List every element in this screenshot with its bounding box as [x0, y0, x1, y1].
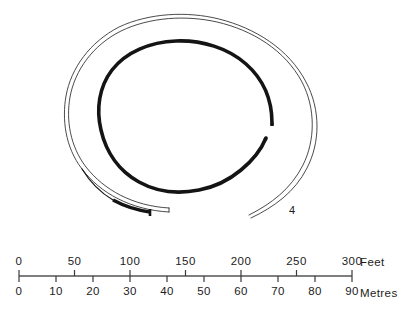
- scale-label-feet-100: 100: [120, 256, 140, 268]
- scale-bar-metre-ticks: [19, 276, 352, 282]
- outer-ditch-double-line: [64, 14, 317, 218]
- outer-ditch-solid-terminal: [113, 200, 150, 212]
- scale-label-metres-40: 40: [160, 286, 174, 298]
- inner-ditch-thick-line: [99, 41, 272, 192]
- scale-label-feet-150: 150: [175, 256, 195, 268]
- inner-ditch-main-circuit: [99, 41, 272, 192]
- scale-label-feet-250: 250: [286, 256, 306, 268]
- figure-number-label: 4: [289, 205, 295, 216]
- outer-ditch-thickening-arm: [82, 169, 148, 212]
- outer-ditch-outer-edge: [69, 18, 313, 215]
- scale-label-metres-90: 90: [345, 286, 359, 298]
- scale-label-metres-30: 30: [123, 286, 137, 298]
- scale-label-metres-60: 60: [234, 286, 248, 298]
- scale-label-metres-20: 20: [86, 286, 100, 298]
- scale-label-metres-80: 80: [308, 286, 322, 298]
- scale-label-metres-50: 50: [197, 286, 211, 298]
- figure-container: 4 0501001502002503000102030405060708090F…: [0, 0, 404, 318]
- inner-ditch-gap-terminal-south: [265, 138, 266, 140]
- scale-bar-feet-ticks: [19, 270, 352, 276]
- site-plan-drawing: [0, 0, 404, 318]
- scale-label-metres-10: 10: [49, 286, 63, 298]
- scale-label-feet-50: 50: [68, 256, 82, 268]
- outer-ditch-inner-edge: [64, 14, 317, 218]
- scale-unit-label-feet: Feet: [360, 257, 385, 269]
- scale-label-metres-0: 0: [16, 286, 23, 298]
- scale-label-feet-200: 200: [231, 256, 251, 268]
- scale-label-feet-0: 0: [16, 256, 23, 268]
- scale-label-metres-70: 70: [271, 286, 285, 298]
- scale-unit-label-metres: Metres: [360, 288, 398, 300]
